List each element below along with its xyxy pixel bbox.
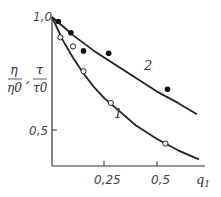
curve-2 xyxy=(52,17,197,114)
curve-1 xyxy=(52,17,199,159)
y-label-eta: η xyxy=(10,62,18,77)
y-label-sep: , xyxy=(26,71,30,85)
data-point-series-2 xyxy=(81,48,87,54)
data-point-series-1 xyxy=(163,141,168,146)
plot-area xyxy=(52,17,199,159)
axes xyxy=(52,17,205,166)
y-tick-label-10: 1,0 xyxy=(33,10,52,24)
data-point-series-1 xyxy=(58,35,63,40)
y-label-eta0: η0 xyxy=(7,81,22,95)
x-tick-label-05: 0,5 xyxy=(151,173,170,187)
curve-label-1: 1 xyxy=(114,106,122,121)
data-point-series-2 xyxy=(68,30,74,36)
data-point-series-2 xyxy=(56,19,62,25)
data-point-series-2 xyxy=(165,87,171,93)
chart: 0,25 0,5 0,5 1,0 q1 η η0 , τ τ0 1 2 xyxy=(0,0,221,197)
y-axis-label: η η0 , τ τ0 xyxy=(7,62,48,95)
data-point-series-1 xyxy=(108,100,113,105)
y-tick-label-05: 0,5 xyxy=(29,124,48,138)
data-point-series-1 xyxy=(81,69,86,74)
y-label-tau: τ xyxy=(36,62,44,77)
data-point-series-1 xyxy=(70,44,75,49)
x-tick-label-025: 0,25 xyxy=(94,173,121,187)
data-point-series-2 xyxy=(106,50,112,56)
curve-label-2: 2 xyxy=(143,58,152,73)
y-label-tau0: τ0 xyxy=(33,81,48,95)
x-axis-label: q1 xyxy=(196,172,210,189)
